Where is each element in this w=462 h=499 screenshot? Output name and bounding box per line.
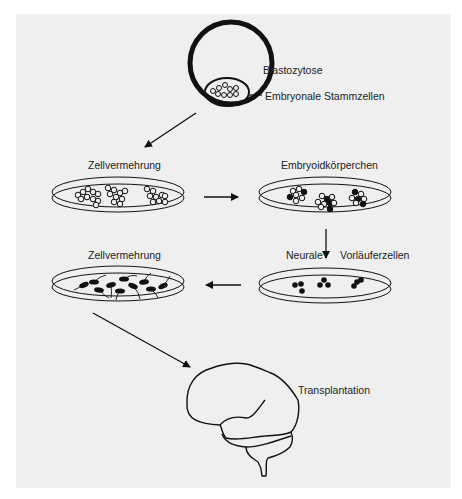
petri-dish-embryoid-bodies (259, 177, 391, 212)
label-transplantation: Transplantation (298, 384, 370, 396)
blastocyst-icon (190, 22, 272, 106)
label-proliferation-1: Zellvermehrung (88, 159, 161, 171)
label-proliferation-2: Zellvermehrung (88, 249, 161, 261)
brain-icon (187, 363, 299, 476)
label-neural: Neurale (286, 249, 323, 261)
petri-dish-stem-cells (52, 177, 184, 212)
petri-dish-neural-progenitors (259, 268, 391, 303)
label-blastocyst: Blastozytose (263, 64, 323, 76)
petri-dish-expanded-neurons (52, 266, 184, 301)
arrow-to-transplantation (93, 313, 190, 367)
label-progenitor-cells: Vorläuferzellen (340, 249, 409, 261)
arrow-to-proliferation (145, 113, 196, 147)
label-embryoid-bodies: Embryoidkörperchen (281, 159, 378, 171)
label-embryonic-stem-cells: Embryonale Stammzellen (265, 90, 385, 102)
